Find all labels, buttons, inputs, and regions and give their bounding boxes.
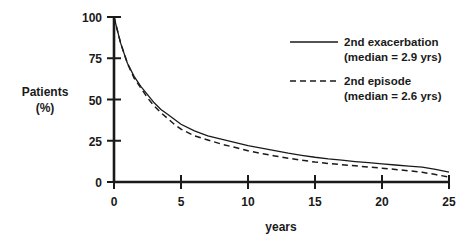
legend-label-line2: (median = 2.9 yrs) [344,51,442,63]
x-tick-label: 5 [178,195,185,209]
y-axis-title-line1: Patients [22,85,69,99]
x-tick-label: 0 [111,195,118,209]
legend-item-2nd-exacerbation: 2nd exacerbation (median = 2.9 yrs) [290,36,442,63]
survival-curve-chart: 100 75 50 25 0 0 5 10 15 20 25 Patients … [0,0,466,241]
x-tick-labels: 0 5 10 15 20 25 [111,195,456,209]
legend-label-line1: 2nd exacerbation [344,36,439,48]
y-axis-title-line2: (%) [36,101,55,115]
legend-item-2nd-episode: 2nd episode (median = 2.6 yrs) [290,75,442,102]
y-tick-labels: 100 75 50 25 0 [82,11,102,190]
x-tick-label: 10 [241,195,255,209]
x-tick-label: 20 [375,195,389,209]
x-tick-label: 25 [442,195,456,209]
legend-label-line2: (median = 2.6 yrs) [344,90,442,102]
y-tick-label: 100 [82,11,102,25]
y-tick-label: 50 [89,94,103,108]
legend: 2nd exacerbation (median = 2.9 yrs) 2nd … [290,36,442,102]
y-tick-label: 25 [89,135,103,149]
y-tick-label: 0 [95,176,102,190]
legend-label-line1: 2nd episode [344,75,411,87]
x-tick-label: 15 [308,195,322,209]
y-tick-label: 75 [89,52,103,66]
x-axis-title: years [265,220,297,234]
